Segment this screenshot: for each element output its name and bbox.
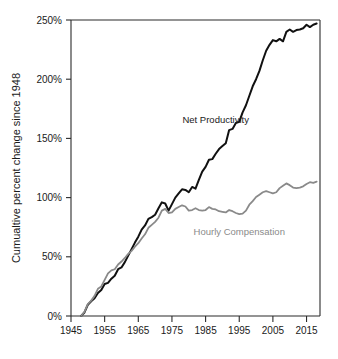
y-tick-label: 200% bbox=[36, 74, 62, 85]
series-line-net-productivity bbox=[81, 24, 317, 316]
x-tick-label: 1945 bbox=[60, 325, 83, 336]
y-axis-title: Cumualtive percent change since 1948 bbox=[10, 73, 22, 263]
productivity-vs-compensation-chart: Cumualtive percent change since 1948 0%5… bbox=[0, 0, 338, 359]
x-tick-label: 1965 bbox=[127, 325, 150, 336]
x-tick-label: 1995 bbox=[228, 325, 251, 336]
y-tick-label: 0% bbox=[48, 311, 63, 322]
series-line-hourly-compensation bbox=[81, 182, 317, 316]
x-axis-ticks: 19451955196519751985199520052015 bbox=[60, 316, 318, 336]
y-tick-label: 150% bbox=[36, 133, 62, 144]
y-tick-label: 50% bbox=[42, 251, 62, 262]
x-tick-label: 2015 bbox=[295, 325, 318, 336]
x-tick-label: 2005 bbox=[262, 325, 285, 336]
series-annotation-hourly-compensation: Hourly Compensation bbox=[194, 226, 285, 237]
data-series-group bbox=[81, 24, 317, 316]
x-tick-label: 1955 bbox=[94, 325, 117, 336]
y-tick-label: 250% bbox=[36, 15, 62, 26]
x-tick-label: 1975 bbox=[161, 325, 184, 336]
y-tick-label: 100% bbox=[36, 192, 62, 203]
series-annotations: Net ProductivityHourly Compensation bbox=[182, 114, 284, 237]
series-annotation-net-productivity: Net Productivity bbox=[182, 114, 249, 125]
x-tick-label: 1985 bbox=[194, 325, 217, 336]
y-axis-ticks: 0%50%100%150%200%250% bbox=[36, 15, 71, 322]
axis-lines bbox=[71, 20, 320, 316]
chart-container: Cumualtive percent change since 1948 0%5… bbox=[0, 0, 338, 359]
